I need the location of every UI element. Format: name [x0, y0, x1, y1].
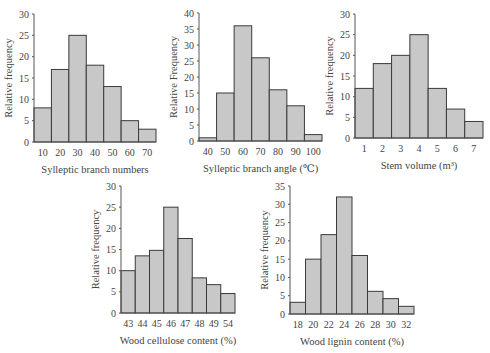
x-tick-label: 30	[73, 147, 83, 158]
histogram-bar	[355, 88, 373, 138]
histogram-bar	[221, 294, 235, 313]
x-tick-label: 6	[453, 143, 458, 154]
x-tick-label: 60	[125, 147, 135, 158]
x-tick-label: 46	[166, 318, 176, 329]
y-tick-label: 5	[189, 120, 194, 131]
x-tick-label: 50	[220, 146, 230, 157]
y-tick-label: 10	[184, 104, 194, 115]
histogram-bar	[150, 250, 164, 313]
y-tick-label: 15	[106, 244, 116, 255]
histogram-c1: 05101520253010203040506070Sylleptic bran…	[3, 9, 156, 176]
histogram-bar	[399, 306, 415, 314]
histogram-bar	[368, 291, 384, 314]
y-tick-label: 25	[184, 56, 194, 67]
y-tick-label: 25	[275, 217, 285, 228]
x-tick-label: 30	[386, 319, 396, 330]
y-tick-label: 30	[184, 40, 194, 51]
y-tick-label: 35	[275, 181, 285, 192]
x-tick-label: 7	[471, 143, 476, 154]
x-tick-label: 4	[417, 143, 422, 154]
histogram-bar	[217, 93, 235, 141]
histogram-bar	[306, 259, 322, 314]
x-tick-label: 10	[38, 147, 48, 158]
x-tick-label: 54	[223, 318, 233, 329]
x-tick-label: 45	[152, 318, 162, 329]
x-tick-label: 40	[90, 147, 100, 158]
y-tick-label: 25	[106, 202, 116, 213]
x-tick-label: 50	[107, 147, 117, 158]
y-axis-title: Relative frequency	[3, 37, 14, 117]
y-tick-label: 10	[340, 91, 350, 102]
histogram-c2: 0510152025303540405060708090100Sylleptic…	[168, 8, 322, 176]
x-tick-label: 70	[142, 147, 152, 158]
histogram-c3: 0510152025301234567Stem volume (m³)Relat…	[324, 9, 483, 173]
histogram-bar	[321, 235, 337, 314]
y-axis-title: Relative Frequency	[168, 35, 179, 118]
histogram-bar	[86, 65, 103, 142]
y-tick-label: 0	[345, 133, 350, 144]
y-axis-title: Relative frequency	[324, 35, 335, 115]
x-axis-title: Sylleptic branch angle (℃)	[203, 163, 319, 175]
y-tick-label: 0	[24, 137, 29, 148]
histogram-bar	[207, 285, 221, 313]
y-tick-label: 0	[280, 309, 285, 320]
y-tick-label: 30	[19, 9, 29, 20]
x-axis-title: Sylleptic branch numbers	[41, 164, 148, 175]
histogram-bar	[428, 88, 446, 138]
x-tick-label: 3	[398, 143, 403, 154]
histogram-bar	[269, 90, 287, 141]
x-tick-label: 32	[401, 319, 411, 330]
x-tick-label: 18	[293, 319, 303, 330]
histogram-bar	[192, 278, 206, 313]
y-axis-title: Relative frequency	[259, 209, 270, 289]
x-tick-label: 26	[355, 319, 365, 330]
x-tick-label: 90	[291, 146, 301, 157]
x-tick-label: 22	[324, 319, 334, 330]
histogram-bar	[252, 58, 270, 141]
histogram-bar	[234, 26, 252, 141]
histogram-bar	[446, 109, 464, 138]
y-tick-label: 25	[340, 29, 350, 40]
x-tick-label: 80	[273, 146, 283, 157]
y-tick-label: 10	[106, 265, 116, 276]
histogram-bar	[352, 255, 368, 314]
y-tick-label: 20	[19, 51, 29, 62]
histogram-bar	[34, 108, 51, 142]
y-tick-label: 15	[19, 73, 29, 84]
x-tick-label: 60	[238, 146, 248, 157]
x-tick-label: 43	[123, 318, 133, 329]
x-tick-label: 28	[370, 319, 380, 330]
histogram-bar	[383, 299, 399, 314]
y-tick-label: 30	[106, 181, 116, 192]
x-tick-label: 100	[306, 146, 321, 157]
histogram-bar	[121, 121, 138, 142]
y-tick-label: 10	[19, 94, 29, 105]
y-tick-label: 15	[184, 88, 194, 99]
histogram-bar	[304, 135, 322, 141]
y-tick-label: 35	[184, 24, 194, 35]
y-tick-label: 30	[275, 199, 285, 210]
x-tick-label: 1	[362, 143, 367, 154]
y-tick-label: 0	[189, 136, 194, 147]
histogram-bar	[121, 271, 135, 313]
histogram-bar	[51, 69, 68, 142]
y-tick-label: 20	[184, 72, 194, 83]
x-tick-label: 70	[256, 146, 266, 157]
y-tick-label: 10	[275, 272, 285, 283]
y-tick-label: 30	[340, 9, 350, 20]
y-tick-label: 20	[106, 223, 116, 234]
x-axis-title: Wood lignin content (%)	[300, 336, 404, 348]
y-axis-title: Relative frequency	[90, 209, 101, 289]
histogram-panel: 05101520253010203040506070Sylleptic bran…	[0, 0, 490, 353]
histogram-bar	[287, 106, 305, 141]
histogram-c5: 051015202530351820222426283032Wood ligni…	[259, 181, 414, 349]
x-tick-label: 24	[339, 319, 349, 330]
histogram-bar	[69, 35, 86, 142]
y-tick-label: 40	[184, 8, 194, 19]
x-axis-title: Wood cellulose content (%)	[120, 335, 237, 347]
histogram-bar	[178, 238, 192, 313]
x-tick-label: 20	[308, 319, 318, 330]
x-tick-label: 40	[203, 146, 213, 157]
histogram-bar	[373, 64, 391, 138]
histogram-bar	[164, 207, 178, 313]
